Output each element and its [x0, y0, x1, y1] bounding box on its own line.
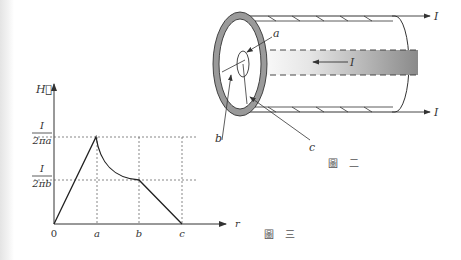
figure-canvas: H⃗ I 2πa I 2πb 0 a b c r 圖 三: [0, 0, 461, 260]
x-axis-label: r: [235, 218, 241, 229]
x-tick-0: 0: [51, 228, 57, 239]
current-top-label: I: [433, 10, 439, 23]
x-tick-c: c: [179, 228, 185, 239]
figure2-caption: 圖 二: [328, 158, 363, 169]
x-tick-b: b: [136, 228, 142, 239]
y-tick-2-denominator: 2πb: [31, 178, 51, 189]
y-tick-1-numerator: I: [39, 120, 45, 131]
label-a: a: [273, 27, 280, 40]
current-center-label: I: [349, 56, 355, 69]
coaxial-cable-diagram: a b c I I I 圖 二: [213, 10, 439, 169]
h-curve: [54, 137, 182, 224]
label-b: b: [215, 132, 222, 145]
x-tick-a: a: [94, 228, 100, 239]
current-bottom-label: I: [433, 106, 439, 119]
figure3-caption: 圖 三: [264, 229, 299, 240]
inner-conductor: [250, 50, 418, 75]
guide-lines: [34, 137, 198, 224]
y-tick-2-numerator: I: [39, 163, 45, 174]
label-c: c: [309, 141, 315, 154]
y-tick-1-denominator: 2πa: [32, 135, 52, 146]
y-axis-label: H⃗: [35, 83, 52, 96]
